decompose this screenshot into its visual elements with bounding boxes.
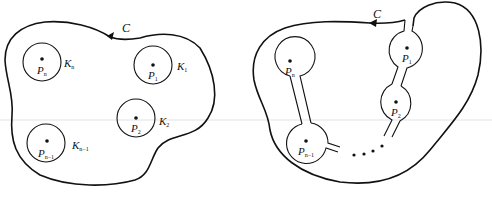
point-p2-dot-right: [394, 100, 398, 104]
contour-label-right: C: [373, 7, 382, 21]
point-pn-dot: [40, 57, 44, 61]
label-k1: K1: [176, 60, 187, 73]
contour-c-right: [253, 2, 481, 183]
arrow-icon: [107, 32, 114, 40]
point-p1-dot: [151, 63, 155, 67]
label-kn: Kn: [63, 57, 74, 70]
keyhole-pn: [275, 37, 315, 124]
label-pn-right: Pn: [284, 65, 295, 78]
diagram-canvas: C Pn Kn P1 K1 P2 K2 Pn−1 Kn−1 C Pn: [0, 0, 492, 200]
label-p2-right: P2: [390, 106, 401, 119]
point-pn-1-dot-right: [304, 139, 308, 143]
label-k2: K2: [158, 115, 169, 128]
label-p1: P1: [147, 69, 158, 82]
label-kn-1: Kn−1: [71, 139, 89, 152]
right-panel: C Pn Pn−1 P1 P2: [253, 2, 481, 183]
label-p2: P2: [130, 122, 141, 135]
contour-c-left: [5, 22, 215, 185]
label-p1-right: P1: [401, 52, 412, 65]
point-pn-dot-right: [288, 59, 292, 63]
label-pn: Pn: [36, 64, 47, 77]
label-pn-1: Pn−1: [37, 147, 54, 160]
contour-label-left: C: [122, 21, 131, 35]
left-panel: C Pn Kn P1 K1 P2 K2 Pn−1 Kn−1: [5, 21, 215, 185]
point-p1-dot-right: [405, 46, 409, 50]
point-p2-dot: [134, 116, 138, 120]
point-pn-1-dot: [45, 139, 49, 143]
ellipsis-dots: [352, 144, 383, 156]
label-pn-1-right: Pn−1: [297, 145, 314, 158]
